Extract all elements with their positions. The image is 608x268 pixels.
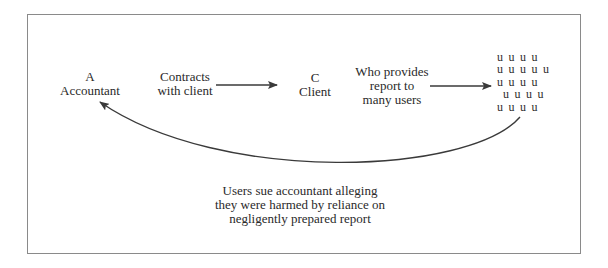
lawsuit-label: Users sue accountant alleging they were …	[215, 184, 385, 226]
user-glyph: u	[497, 101, 509, 113]
user-glyph: u	[532, 63, 544, 75]
user-glyph: u	[520, 63, 532, 75]
user-glyph: u	[509, 63, 521, 75]
contracts-line-1: Contracts	[157, 70, 212, 84]
user-glyph: u	[509, 101, 521, 113]
users-row: uuuu	[497, 88, 555, 100]
user-glyph: u	[532, 101, 544, 113]
contracts-line-2: with client	[157, 84, 212, 98]
client-name: Client	[299, 85, 331, 99]
user-glyph: u	[538, 88, 550, 100]
contracts-label: Contracts with client	[157, 70, 212, 98]
provides-label: Who provides report to many users	[355, 65, 428, 107]
provides-line-3: many users	[355, 93, 428, 107]
user-glyph: u	[515, 88, 527, 100]
accountant-name: Accountant	[60, 84, 120, 98]
user-glyph: u	[497, 63, 509, 75]
users-row: uuuu	[497, 101, 555, 113]
client-letter: C	[299, 71, 331, 85]
users-row: uuuuu	[497, 63, 555, 75]
provides-line-1: Who provides	[355, 65, 428, 79]
lawsuit-line-1: Users sue accountant alleging	[215, 184, 385, 198]
lawsuit-line-2: they were harmed by reliance on	[215, 198, 385, 212]
client-node: C Client	[299, 71, 331, 99]
accountant-node: A Accountant	[60, 70, 120, 98]
users-grid: uuuuuuuuuuuuuuuuuuuuu	[497, 51, 555, 113]
user-glyph: u	[520, 101, 532, 113]
user-glyph: u	[543, 63, 555, 75]
lawsuit-line-3: negligently prepared report	[215, 212, 385, 226]
user-glyph: u	[526, 88, 538, 100]
user-glyph: u	[503, 88, 515, 100]
accountant-letter: A	[60, 70, 120, 84]
provides-line-2: report to	[355, 79, 428, 93]
